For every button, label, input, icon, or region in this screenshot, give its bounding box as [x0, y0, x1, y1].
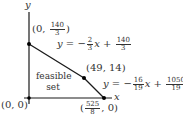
denominator: 19 [133, 85, 144, 92]
label-prefix: ( [80, 102, 84, 113]
eq-op: + [150, 78, 165, 89]
denominator: 3 [87, 45, 93, 52]
y-axis-label: y [25, 0, 31, 10]
vertex-x-intercept [102, 96, 106, 100]
label-prefix: (0, [32, 23, 49, 34]
intercept-fraction: 1403 [116, 37, 131, 52]
denominator: 19 [171, 85, 182, 92]
denominator: 3 [54, 30, 60, 37]
vertex-y-intercept [27, 42, 31, 46]
eq-lhs: y = − [103, 78, 132, 89]
label-suffix: , 0) [101, 102, 118, 113]
slope-fraction: 1619 [133, 77, 144, 92]
fraction: 5258 [85, 101, 100, 116]
vertex-label-x-intercept: (5258, 0) [80, 101, 118, 116]
eq-op: + [100, 38, 115, 49]
denominator: 3 [120, 45, 126, 52]
feasible-set-label: feasible set [36, 71, 70, 93]
label-suffix: ) [66, 23, 70, 34]
equation-line-2: y = −1619x + 105019 [103, 77, 183, 92]
denominator: 8 [89, 109, 95, 116]
slope-fraction: 23 [87, 37, 93, 52]
constraint-line-2 [84, 78, 104, 98]
vertex-label-origin: (0, 0) [1, 100, 28, 110]
intercept-fraction: 105019 [166, 77, 183, 92]
equation-line-1: y = −23x + 1403 [57, 37, 132, 52]
region-label-line-2: set [36, 82, 70, 93]
fraction: 1403 [50, 22, 65, 37]
vertex-corner [82, 76, 86, 80]
vertex-label-corner: (49, 14) [86, 63, 126, 73]
region-label-line-1: feasible [36, 71, 70, 82]
eq-lhs: y = − [57, 38, 86, 49]
vertex-label-y-intercept: (0, 1403) [32, 22, 70, 37]
